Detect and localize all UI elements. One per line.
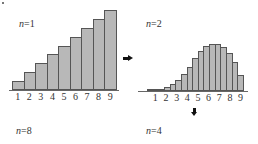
x-ticks-n1: 123456789 — [12, 91, 116, 102]
tick-label: 9 — [104, 91, 116, 102]
label-n8: n=8 — [16, 125, 32, 136]
tick-label: 3 — [35, 91, 47, 102]
tick-label: 1 — [12, 91, 24, 102]
tick-label: 4 — [47, 91, 59, 102]
tick-label: 8 — [225, 92, 236, 103]
label-n2: n=2 — [146, 18, 162, 29]
tick-label: 8 — [93, 91, 105, 102]
corner-mark — [2, 2, 4, 4]
tick-label: 7 — [81, 91, 93, 102]
tick-label: 2 — [161, 92, 172, 103]
tick-label: 5 — [58, 91, 70, 102]
tick-label: 4 — [182, 92, 193, 103]
tick-label: 6 — [70, 91, 82, 102]
tick-label: 5 — [193, 92, 204, 103]
bar — [104, 10, 117, 90]
tick-label: 6 — [203, 92, 214, 103]
chart-n1 — [12, 10, 116, 90]
bar — [237, 75, 244, 91]
x-ticks-n2: 123456789 — [150, 92, 246, 103]
tick-label: 3 — [171, 92, 182, 103]
tick-label: 1 — [150, 92, 161, 103]
tick-label: 7 — [214, 92, 225, 103]
chart-n2 — [147, 44, 243, 91]
tick-label: 2 — [24, 91, 36, 102]
label-n4: n=4 — [146, 125, 162, 136]
tick-label: 9 — [235, 92, 246, 103]
